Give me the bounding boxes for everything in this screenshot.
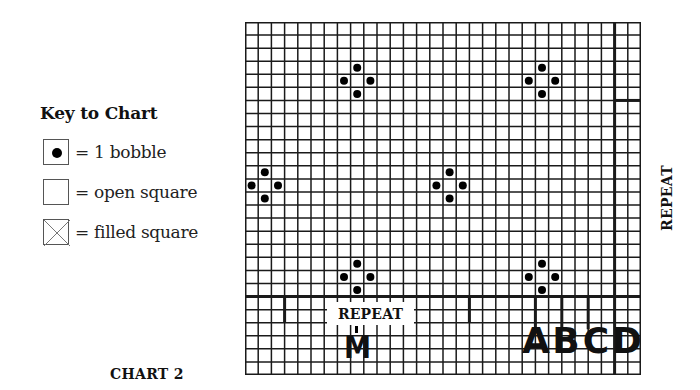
- bobble-icon: [366, 273, 374, 281]
- bobble-icon: [525, 273, 533, 281]
- bobble-icon: [432, 181, 440, 189]
- key-item-bobble: = 1 bobble: [43, 138, 166, 166]
- key-item-open-square: = open square: [43, 178, 197, 206]
- bobble-icon: [353, 286, 361, 294]
- bobble-icon: [340, 273, 348, 281]
- repeat-text-horizontal: REPEAT: [338, 306, 403, 322]
- bobble-icon: [261, 168, 269, 176]
- size-marker-d: D: [612, 322, 640, 360]
- bobble-icon: [274, 181, 282, 189]
- size-marker-m: M: [340, 330, 374, 364]
- bobble-icon: [446, 168, 454, 176]
- bobble-icon: [551, 273, 559, 281]
- bobble-icon: [366, 77, 374, 85]
- bobble-icon: [43, 139, 69, 165]
- bobble-icon: [353, 260, 361, 268]
- bobble-icon: [538, 64, 546, 72]
- filled-square-icon: [43, 219, 69, 245]
- bobble-icon: [538, 90, 546, 98]
- bobble-icon: [446, 195, 454, 203]
- bobble-icon: [248, 181, 256, 189]
- size-markers: A B C D: [522, 322, 640, 360]
- bobble-icon: [538, 286, 546, 294]
- bobble-icon: [353, 64, 361, 72]
- bobble-icon: [538, 260, 546, 268]
- size-marker-a: A: [522, 322, 550, 360]
- bobble-icon: [551, 77, 559, 85]
- size-marker-c: C: [582, 322, 610, 360]
- bobble-icon: [353, 90, 361, 98]
- bobble-icon: [459, 181, 467, 189]
- key-label-open-square: = open square: [75, 182, 197, 202]
- key-label-filled-square: = filled square: [75, 222, 198, 242]
- bobble-icon: [340, 77, 348, 85]
- key-label-bobble: = 1 bobble: [75, 142, 166, 162]
- bobble-icon: [525, 77, 533, 85]
- key-title: Key to Chart: [40, 103, 157, 123]
- bobble-icon: [261, 195, 269, 203]
- repeat-label-horizontal: REPEAT: [327, 302, 414, 325]
- chart-title: CHART 2: [110, 366, 184, 382]
- open-square-icon: [43, 179, 69, 205]
- size-marker-b: B: [552, 322, 580, 360]
- key-item-filled-square: = filled square: [43, 218, 198, 246]
- repeat-label-vertical: REPEAT: [659, 153, 675, 243]
